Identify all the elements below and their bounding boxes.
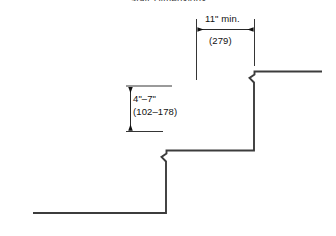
stair-profile-outline [33, 72, 322, 214]
stair-section-drawing [0, 0, 336, 236]
riser-dimension-label-primary: 4"–7" [133, 93, 156, 104]
tread-dimension-group [197, 19, 255, 80]
tread-dimension-label-primary: 11" min. [205, 13, 240, 24]
riser-dimension-label-metric: (102–178) [133, 106, 177, 117]
tread-dimension-label-metric: (279) [209, 35, 232, 46]
figure-canvas: Stair Dimensions [0, 0, 336, 236]
